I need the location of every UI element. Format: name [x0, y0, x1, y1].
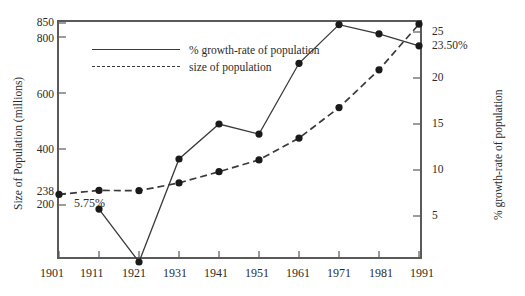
axis-ticks	[57, 23, 422, 259]
data-point-marker	[415, 21, 422, 28]
series-line-growth-rate	[99, 25, 419, 262]
data-point-marker	[375, 30, 382, 37]
data-point-marker	[175, 179, 182, 186]
series-line-population	[59, 24, 419, 194]
data-point-marker	[335, 21, 342, 28]
data-series-group	[55, 21, 422, 266]
data-point-marker	[135, 187, 142, 194]
data-point-marker	[335, 104, 342, 111]
chart-data-overlay	[0, 0, 525, 296]
data-point-marker	[415, 42, 422, 49]
data-point-marker	[295, 135, 302, 142]
data-point-marker	[95, 187, 102, 194]
data-point-marker	[215, 168, 222, 175]
data-point-marker	[255, 131, 262, 138]
data-point-marker	[55, 191, 62, 198]
data-point-marker	[215, 120, 222, 127]
data-point-marker	[175, 155, 182, 162]
data-point-marker	[375, 66, 382, 73]
data-point-marker	[95, 206, 102, 213]
population-growth-chart: 850 800 600 400 238 200 25 23.50% 20 15 …	[0, 0, 525, 296]
data-point-marker	[255, 156, 262, 163]
data-point-marker	[135, 258, 142, 265]
data-point-marker	[295, 60, 302, 67]
